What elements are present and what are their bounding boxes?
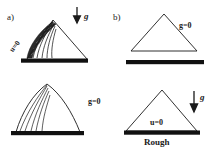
panel-b-top-group: [126, 14, 204, 64]
triangle-outline-b-top: [131, 14, 197, 51]
gravity-label-a: g: [84, 12, 89, 21]
rough-caption: Rough: [144, 138, 170, 147]
flow-lines: [20, 85, 50, 131]
panel-b-tag: b): [113, 13, 121, 22]
ground-bar-b-bottom: [124, 131, 200, 135]
panel-a-tag: a): [7, 13, 14, 22]
down-arrow-icon-b: [190, 91, 197, 112]
slump-outline: [16, 84, 80, 132]
panel-b-bottom-group: [124, 90, 200, 135]
g-zero-right-label: g=0: [179, 22, 192, 30]
down-arrow-icon-a: [74, 7, 81, 23]
panel-a-bottom-group: [11, 84, 84, 135]
ground-bar-b-top: [126, 60, 204, 64]
ground-bar-a-top: [21, 59, 88, 63]
figure-canvas: a) b) g g u=0 g=0 g=0 u=0 Rough: [0, 0, 219, 153]
u-zero-base-label: u=0: [150, 119, 163, 127]
g-zero-left-label: g=0: [88, 98, 101, 106]
ground-bar-a-bottom: [11, 131, 84, 135]
gravity-label-b: g: [200, 93, 205, 102]
panel-a-top-group: [21, 7, 88, 63]
